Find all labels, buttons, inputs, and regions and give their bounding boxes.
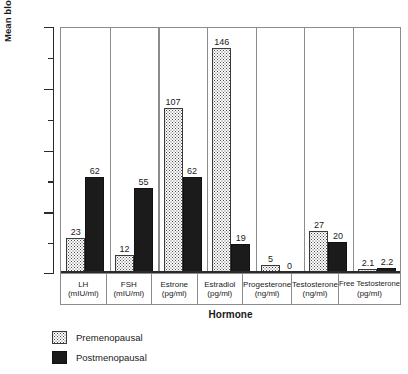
bar-group-testosterone-bars: 27 20 [304, 28, 353, 273]
y-tick-80 [44, 151, 54, 152]
bar-fsh-premenopausal[interactable]: 12 [115, 255, 134, 274]
bar-group-estrone: 107 62 [158, 28, 207, 273]
y-tick-140 [48, 58, 54, 59]
bar-estradiol-premenopausal[interactable]: 146 [212, 48, 231, 273]
legend-label-postmenopausal: Postmenopausal [76, 352, 147, 363]
category-name-lh: LH [78, 280, 88, 289]
category-name-fsh: FSH [121, 280, 137, 289]
y-tick-0 [44, 273, 54, 274]
y-axis-title: Mean blood level [2, 0, 13, 78]
category-name-free-testosterone: Free Testosterone [339, 280, 400, 289]
y-tick-40 [44, 212, 54, 213]
category-label-estradiol: Estradiol (pg/ml) [198, 274, 244, 304]
category-unit-estradiol: (pg/ml) [207, 289, 232, 298]
bar-estrone-premenopausal[interactable]: 107 [164, 108, 183, 273]
bar-value-testosterone-premenopausal: 27 [314, 220, 324, 230]
stipple-swatch-icon [52, 331, 67, 344]
bar-group-fsh: 12 55 [110, 28, 159, 273]
category-unit-lh: (mIU/ml) [68, 289, 99, 298]
bar-value-fsh-premenopausal: 12 [119, 244, 129, 254]
bar-group-lh: 23 62 [61, 28, 110, 273]
category-label-testosterone: Testosterone (ng/ml) [292, 274, 339, 304]
bar-value-lh-premenopausal: 23 [71, 227, 81, 237]
x-axis-title: Hormone [60, 309, 401, 320]
bar-lh-premenopausal[interactable]: 23 [66, 238, 85, 274]
y-tick-100 [48, 120, 54, 121]
bar-group-estradiol-bars: 146 19 [207, 28, 256, 273]
bar-value-estrone-premenopausal: 107 [166, 97, 181, 107]
bar-value-progesterone-postmenopausal: 0 [287, 261, 292, 271]
category-label-row: LH (mIU/ml) FSH (mIU/ml) Estrone (pg/ml)… [60, 274, 401, 305]
bar-chart-figure: Mean blood level 160 120 80 40 0 23 [0, 0, 408, 374]
category-name-estradiol: Estradiol [204, 280, 235, 289]
bar-group-free-testosterone: 2.1 2.2 [353, 28, 402, 273]
bar-testosterone-premenopausal[interactable]: 27 [309, 231, 328, 273]
bar-estradiol-postmenopausal[interactable]: 19 [231, 244, 250, 273]
bar-group-lh-bars: 23 62 [61, 28, 110, 273]
category-label-fsh: FSH (mIU/ml) [107, 274, 153, 304]
bar-group-progesterone-bars: 5 0 [256, 28, 305, 273]
bar-value-estradiol-premenopausal: 146 [214, 37, 229, 47]
category-label-progesterone: Progesterone (ng/ml) [243, 274, 292, 304]
bar-group-progesterone: 5 0 [256, 28, 305, 273]
category-label-lh: LH (mIU/ml) [61, 274, 107, 304]
bar-group-free-testosterone-bars: 2.1 2.2 [353, 28, 402, 273]
category-name-estrone: Estrone [161, 280, 189, 289]
legend-item-postmenopausal: Postmenopausal [52, 348, 147, 366]
category-label-estrone: Estrone (pg/ml) [152, 274, 198, 304]
category-name-progesterone: Progesterone [243, 280, 291, 289]
category-unit-fsh: (mIU/ml) [113, 289, 144, 298]
y-tick-160 [44, 27, 54, 28]
bar-value-lh-postmenopausal: 62 [90, 166, 100, 176]
bar-testosterone-postmenopausal[interactable]: 20 [328, 242, 347, 273]
solid-black-swatch-icon [52, 351, 67, 364]
y-tick-60 [48, 181, 54, 182]
bar-value-fsh-postmenopausal: 55 [138, 177, 148, 187]
category-unit-free-testosterone: (pg/ml) [357, 289, 382, 298]
bar-value-estrone-postmenopausal: 62 [187, 166, 197, 176]
y-axis: 160 120 80 40 0 [44, 27, 54, 274]
y-tick-120 [44, 89, 54, 90]
legend-item-premenopausal: Premenopausal [52, 328, 147, 346]
x-axis-baseline [61, 271, 400, 273]
bar-group-estrone-bars: 107 62 [158, 28, 207, 273]
y-tick-20 [48, 243, 54, 244]
bar-group-testosterone: 27 20 [304, 28, 353, 273]
bar-group-estradiol: 146 19 [207, 28, 256, 273]
bar-estrone-postmenopausal[interactable]: 62 [183, 177, 202, 273]
chart-legend: Premenopausal Postmenopausal [52, 328, 147, 368]
bar-value-free-testosterone-postmenopausal: 2.2 [381, 257, 394, 267]
bar-fsh-postmenopausal[interactable]: 55 [134, 188, 153, 273]
category-unit-estrone: (pg/ml) [162, 289, 187, 298]
bar-lh-postmenopausal[interactable]: 62 [85, 177, 104, 273]
plot-area: 23 62 12 55 107 [60, 27, 401, 274]
category-unit-testosterone: (ng/ml) [303, 289, 328, 298]
bar-value-estradiol-postmenopausal: 19 [236, 233, 246, 243]
bar-value-testosterone-postmenopausal: 20 [333, 231, 343, 241]
bar-value-progesterone-premenopausal: 5 [268, 254, 273, 264]
bar-group-fsh-bars: 12 55 [110, 28, 159, 273]
category-name-testosterone: Testosterone [292, 280, 338, 289]
bar-value-free-testosterone-premenopausal: 2.1 [362, 258, 375, 268]
category-unit-progesterone: (ng/ml) [255, 289, 280, 298]
legend-label-premenopausal: Premenopausal [76, 332, 143, 343]
category-label-free-testosterone: Free Testosterone (pg/ml) [339, 274, 400, 304]
